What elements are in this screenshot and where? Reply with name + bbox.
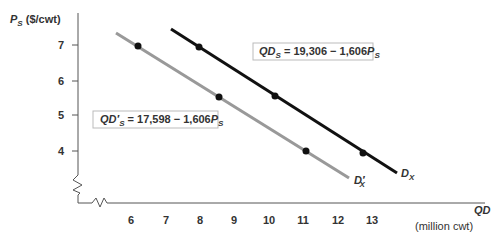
svg-text:9: 9	[231, 214, 237, 226]
dx-label: DX	[401, 167, 415, 182]
dx-prime-label: D′X	[354, 174, 366, 189]
dx-prime-point	[303, 148, 310, 155]
dx-point	[272, 93, 279, 100]
svg-text:12: 12	[332, 214, 344, 226]
x-axis	[78, 198, 485, 207]
y-axis-title: PS ($/cwt)	[10, 13, 61, 28]
svg-text:6: 6	[58, 75, 64, 87]
equation-box-dx: QDS = 19,306 − 1,606PS	[253, 43, 380, 60]
equation-box-dx-prime: QD′S = 17,598 − 1,606PS	[93, 111, 224, 128]
x-axis-unit: (million cwt)	[415, 220, 473, 232]
svg-text:11: 11	[297, 214, 309, 226]
dx-point	[360, 150, 367, 157]
dx-prime-point	[216, 94, 223, 101]
dx-point	[196, 44, 203, 51]
y-axis	[72, 13, 82, 203]
dx-prime-point	[135, 43, 142, 50]
svg-text:10: 10	[263, 214, 275, 226]
x-axis-title: QD	[474, 204, 491, 216]
svg-text:6: 6	[128, 214, 134, 226]
demand-chart: PS ($/cwt) 7 6 5 4 6 7 8 9 10 11 12 13 Q…	[0, 0, 503, 240]
svg-text:13: 13	[366, 214, 378, 226]
y-tick-labels: 7 6 5 4	[58, 39, 65, 157]
svg-text:7: 7	[58, 39, 64, 51]
svg-text:8: 8	[197, 214, 203, 226]
x-tick-labels: 6 7 8 9 10 11 12 13	[128, 214, 378, 226]
svg-text:4: 4	[58, 145, 65, 157]
svg-text:7: 7	[163, 214, 169, 226]
svg-text:5: 5	[58, 109, 64, 121]
